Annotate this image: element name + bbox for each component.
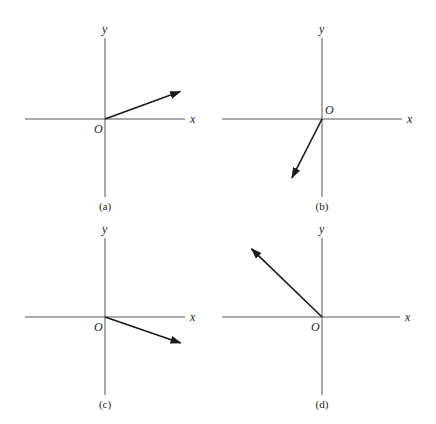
vector-diagram-figure: xyO(a)xyO(b)xyO(c)xyO(d) xyxy=(0,0,436,424)
y-axis-label: y xyxy=(318,222,325,236)
panel-caption: (a) xyxy=(99,200,112,213)
y-axis-label: y xyxy=(101,222,108,236)
vector-arrow xyxy=(105,92,180,119)
panel-b: xyO(b) xyxy=(222,22,413,213)
vector-arrow xyxy=(252,249,323,317)
y-axis-label: y xyxy=(101,22,108,36)
origin-label: O xyxy=(94,122,103,136)
panel-caption: (d) xyxy=(316,398,329,411)
y-axis-label: y xyxy=(318,22,325,36)
x-axis-label: x xyxy=(406,112,413,126)
x-axis-label: x xyxy=(404,310,411,324)
x-axis-label: x xyxy=(189,112,196,126)
origin-label: O xyxy=(94,320,103,334)
x-axis-label: x xyxy=(189,310,196,324)
panel-d: xyO(d) xyxy=(222,222,411,411)
panel-c: xyO(c) xyxy=(25,222,196,411)
vector-arrow xyxy=(292,119,322,178)
panel-a: xyO(a) xyxy=(25,22,196,213)
panel-caption: (b) xyxy=(316,200,329,213)
vector-arrow xyxy=(105,317,181,343)
origin-label: O xyxy=(325,103,334,117)
panel-caption: (c) xyxy=(99,398,112,411)
origin-label: O xyxy=(311,320,320,334)
